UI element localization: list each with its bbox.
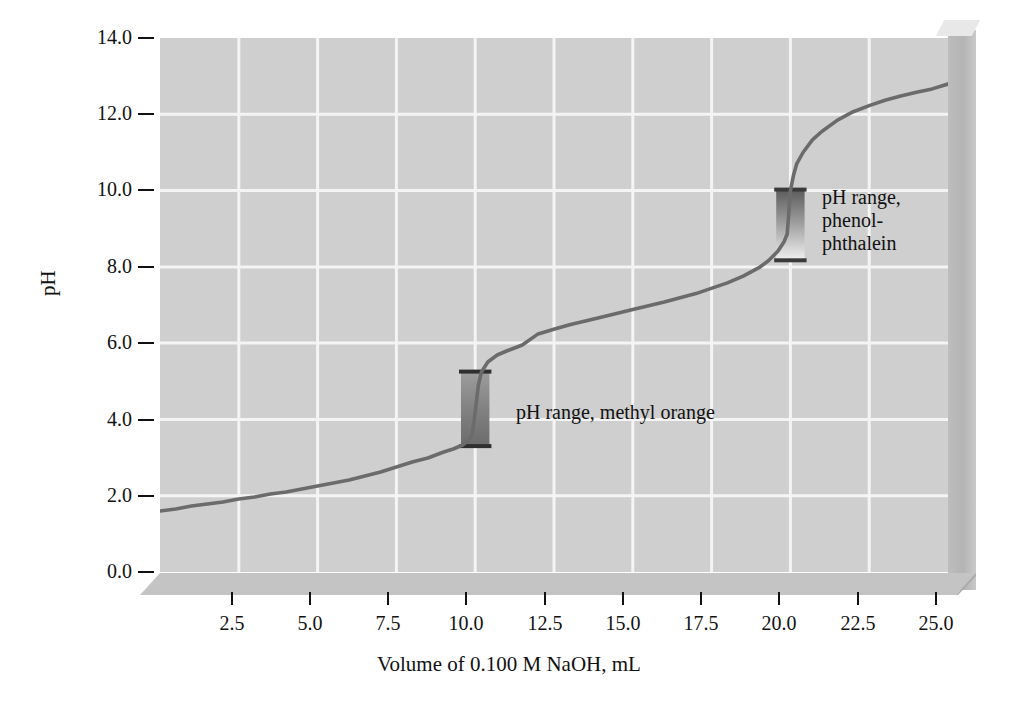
ytick-dash: [138, 37, 154, 39]
x-axis-title: Volume of 0.100 M NaOH, mL: [0, 652, 1018, 677]
xtick-label-2p5: 2.5: [220, 612, 245, 635]
xtick-label-7p5: 7.5: [376, 612, 401, 635]
ytick-label-4: 4.0: [107, 409, 132, 429]
y-axis-title: pH: [36, 270, 61, 296]
xtick-mark: [544, 592, 546, 605]
xtick-mark: [935, 592, 937, 605]
xtick-label-12p5: 12.5: [528, 612, 563, 635]
ytick-label-2: 2.0: [107, 485, 132, 505]
ytick-dash: [138, 495, 154, 497]
ytick-dash: [138, 342, 154, 344]
annotation-methyl-orange: pH range, methyl orange: [516, 401, 715, 424]
ytick-label-0: 0.0: [107, 561, 132, 581]
xtick-mark: [622, 592, 624, 605]
xtick-label-5: 5.0: [298, 612, 323, 635]
ytick-dash: [138, 113, 154, 115]
ytick-dash: [138, 266, 154, 268]
ytick-dash: [138, 419, 154, 421]
titration-curve-figure: 14.0 12.0 10.0 8.0 6.0 4.0 2.0 0.0 pH: [0, 0, 1018, 714]
xtick-mark: [309, 592, 311, 605]
xtick-label-17p5: 17.5: [684, 612, 719, 635]
xtick-label-22p5: 22.5: [841, 612, 876, 635]
ytick-label-10: 10.0: [97, 179, 132, 199]
xtick-mark: [387, 592, 389, 605]
xtick-mark: [231, 592, 233, 605]
xtick-mark: [465, 592, 467, 605]
ytick-label-8: 8.0: [107, 256, 132, 276]
xtick-mark: [778, 592, 780, 605]
ytick-label-14: 14.0: [97, 27, 132, 47]
xtick-label-15: 15.0: [606, 612, 641, 635]
frame-base-floor: [140, 573, 976, 595]
ytick-dash: [138, 189, 154, 191]
annotation-phenolphthalein: pH range, phenol- phthalein: [822, 186, 901, 256]
ytick-dash: [138, 571, 154, 573]
ytick-label-12: 12.0: [97, 103, 132, 123]
y-axis-tick-labels: 14.0 12.0 10.0 8.0 6.0 4.0 2.0 0.0: [60, 0, 132, 714]
plot-area: [160, 38, 948, 572]
xtick-label-10: 10.0: [449, 612, 484, 635]
xtick-mark: [700, 592, 702, 605]
frame-right-panel: [948, 30, 976, 590]
xtick-mark: [857, 592, 859, 605]
ytick-label-6: 6.0: [107, 332, 132, 352]
plot-canvas: [160, 38, 948, 572]
xtick-label-20: 20.0: [762, 612, 797, 635]
xtick-label-25: 25.0: [919, 612, 954, 635]
